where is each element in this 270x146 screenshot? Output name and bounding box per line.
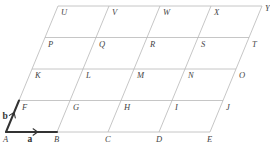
vector-label-a: a [28,134,33,144]
point-label-E: E [206,134,213,144]
point-label-I: I [174,102,179,112]
basis-vectors: ab [3,101,58,145]
point-label-G: G [73,102,79,112]
point-labels: ABCDEFGHIJKLMNOPQRSTUVWXY [2,3,270,144]
point-label-S: S [201,39,206,49]
point-label-Q: Q [99,39,105,49]
vector-b: b [3,101,20,133]
point-label-T: T [252,39,258,49]
point-label-P: P [47,39,53,49]
point-label-M: M [136,70,145,80]
point-label-R: R [149,39,156,49]
point-label-V: V [112,7,119,17]
point-label-K: K [34,70,42,80]
point-label-O: O [239,70,245,80]
point-label-H: H [123,102,131,112]
point-label-W: W [163,7,171,17]
lattice-grid-lines [6,6,262,132]
point-label-J: J [226,102,231,112]
point-label-Y: Y [265,3,270,13]
point-label-F: F [21,102,28,112]
point-label-L: L [85,70,91,80]
point-label-A: A [2,134,9,144]
point-label-C: C [105,134,111,144]
vector-a: a [6,129,57,144]
point-label-B: B [54,134,59,144]
vector-label-b: b [3,111,8,121]
point-label-D: D [155,134,163,144]
parallelogram-lattice-diagram: ab ABCDEFGHIJKLMNOPQRSTUVWXY [0,0,270,146]
point-label-U: U [61,7,68,17]
point-label-X: X [213,7,220,17]
point-label-N: N [187,70,195,80]
vector-b-line [6,101,19,133]
